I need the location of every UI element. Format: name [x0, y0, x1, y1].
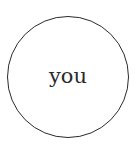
- circle-node: you: [7, 16, 129, 138]
- node-label: you: [8, 17, 128, 137]
